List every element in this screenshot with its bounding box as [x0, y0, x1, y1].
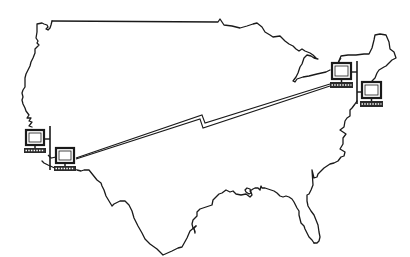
- west-coast: [22, 21, 52, 127]
- network-map-diagram: [0, 0, 410, 257]
- wan-lightning-link: [76, 84, 330, 159]
- west-pc-1: [24, 130, 46, 153]
- northern-border: [52, 19, 330, 82]
- east-pc-2: [360, 82, 383, 107]
- monitor-screen: [29, 133, 41, 142]
- east-coast: [307, 101, 357, 243]
- monitor-screen: [365, 85, 378, 95]
- us-map-outline: [22, 19, 396, 255]
- lightning-link-lower: [76, 86, 330, 159]
- monitor-screen: [59, 151, 71, 160]
- keyboard-icon: [360, 101, 383, 107]
- keyboard-icon: [330, 82, 353, 88]
- gulf-coast: [192, 186, 314, 243]
- east-pc-1: [330, 63, 353, 88]
- diagram-canvas: [0, 0, 410, 257]
- texas-border: [42, 161, 196, 255]
- monitor-screen: [335, 66, 348, 76]
- west-pc-2: [54, 148, 76, 171]
